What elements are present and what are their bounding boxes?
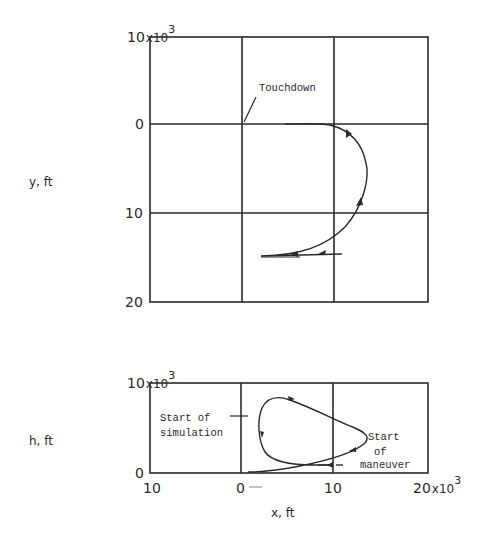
top-ytick-20: 20 xyxy=(125,294,143,310)
top-plot-frame xyxy=(150,37,428,302)
bottom-xtick-20: 20x103 xyxy=(413,474,461,496)
arrow-icon xyxy=(327,462,333,468)
maneuver-label-3: maneuver xyxy=(360,459,410,471)
altitude-profile-curve xyxy=(248,398,367,472)
bottom-xtick-0: 0 xyxy=(236,480,245,496)
bottom-xtick-neg10: 10 xyxy=(143,480,161,496)
maneuver-label-1: Start xyxy=(368,431,400,443)
top-plot xyxy=(150,37,428,302)
top-ytick-0: 0 xyxy=(135,116,144,132)
simulation-label-1: Start of xyxy=(160,412,210,424)
bottom-xtick-10: 10 xyxy=(324,480,342,496)
top-ytick-10: 10x103 xyxy=(127,23,175,45)
simulation-label-2: simulation xyxy=(160,427,223,439)
top-ytick-10b: 10 xyxy=(125,205,143,221)
touchdown-label: Touchdown xyxy=(259,82,316,94)
top-ylabel: y, ft xyxy=(29,175,53,189)
bottom-xlabel: x, ft xyxy=(271,506,295,520)
arrow-icon xyxy=(290,251,298,257)
bottom-ylabel: h, ft xyxy=(29,434,53,448)
ground-track-curve xyxy=(261,124,367,256)
bottom-ytick-0: 0 xyxy=(135,465,144,481)
arrow-icon xyxy=(260,431,264,438)
figure: 10x103 0 10 20 Touchdown y, ft 10x103 0 … xyxy=(0,0,504,538)
arrow-icon xyxy=(346,129,352,138)
bottom-ytick-10: 10x103 xyxy=(127,369,175,391)
touchdown-leader xyxy=(244,97,256,122)
maneuver-label-2: of xyxy=(374,446,387,458)
